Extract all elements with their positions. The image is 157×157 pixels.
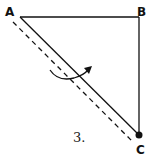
figure-number: 3. — [73, 130, 85, 145]
label-b: B — [137, 5, 146, 19]
rotation-arrow-icon — [50, 70, 88, 79]
label-a: A — [5, 5, 15, 19]
dashed-fold-line — [13, 22, 133, 142]
point-c-dot — [136, 132, 143, 139]
diagram-svg: A B C 3. — [0, 0, 157, 157]
label-c: C — [136, 143, 145, 157]
geometry-diagram: A B C 3. — [0, 0, 157, 157]
